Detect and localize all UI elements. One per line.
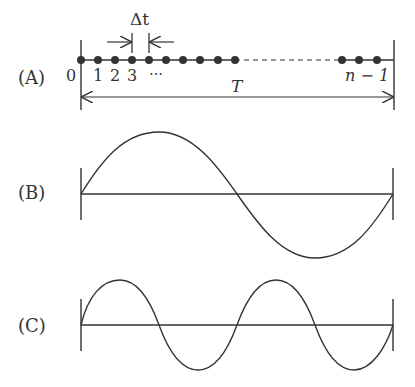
panel-b-label: (B) (18, 182, 45, 203)
index-label-1: 1 (93, 66, 103, 85)
panel-a: (A) Δt 0 1 2 3 ⋯ n − 1 T (18, 9, 394, 110)
index-label-0: 0 (66, 66, 76, 85)
panel-b-sine-wave (81, 132, 393, 258)
sampling-diagram: (A) Δt 0 1 2 3 ⋯ n − 1 T (B) (0, 0, 415, 387)
index-label-2: 2 (110, 66, 120, 85)
last-index-label: n − 1 (345, 66, 389, 85)
panel-c-label: (C) (18, 315, 46, 336)
panel-c: (C) (18, 280, 393, 370)
index-ellipsis: ⋯ (149, 66, 163, 82)
panel-a-label: (A) (18, 67, 45, 88)
delta-t-label: Δt (130, 9, 149, 29)
panel-b: (B) (18, 132, 393, 258)
period-label: T (231, 76, 244, 96)
index-label-3: 3 (127, 66, 137, 85)
